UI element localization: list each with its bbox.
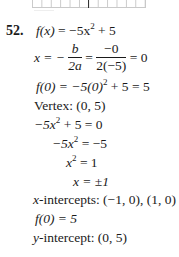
fraction-numerator: b bbox=[68, 42, 82, 58]
step-post: = 1 bbox=[77, 155, 98, 170]
step-post: = −5 bbox=[78, 136, 107, 151]
graph-grid-fragment bbox=[32, 0, 146, 8]
step-pre: −5x bbox=[52, 136, 74, 151]
vertex-line: Vertex: (0, 5) bbox=[34, 99, 106, 113]
y-intercept-line: y-intercept: (0, 5) bbox=[33, 231, 127, 245]
vertex-y-calculation: f(0) = −5(0)2 + 5 = 5 bbox=[36, 80, 150, 94]
function-lhs: f(x) bbox=[36, 23, 55, 38]
equals: = bbox=[82, 50, 96, 65]
graph-y-axis bbox=[88, 0, 89, 8]
vertex-x-result: = 0 bbox=[126, 50, 147, 65]
solve-step-4: x = ±1 bbox=[73, 175, 109, 189]
y-intercept-value: (0, 5) bbox=[98, 230, 127, 245]
function-eq: = −5x bbox=[55, 23, 90, 38]
step-pre: −5x bbox=[34, 117, 56, 132]
fraction-denominator: 2(−5) bbox=[96, 58, 126, 73]
x-intercepts-value: (−1, 0), (1, 0) bbox=[103, 192, 176, 207]
vertex-x-formula: x = − b 2a = −0 2(−5) = 0 bbox=[34, 43, 147, 74]
f-zero-line: f(0) = 5 bbox=[35, 212, 77, 226]
f-zero-text: f(0) = 5 bbox=[35, 211, 77, 226]
function-rest: + 5 bbox=[95, 23, 116, 38]
solve-step-3: x2 = 1 bbox=[66, 156, 98, 170]
vertex-y-rest: + 5 = 5 bbox=[107, 79, 149, 94]
vertex-label: Vertex: bbox=[34, 98, 76, 113]
solve-step-1: −5x2 + 5 = 0 bbox=[34, 118, 103, 132]
problem-number: 52. bbox=[6, 24, 24, 38]
x-intercepts-line: x-intercepts: (−1, 0), (1, 0) bbox=[33, 193, 176, 207]
y-intercept-label: -intercept: bbox=[39, 230, 98, 245]
grid-shadow bbox=[34, 10, 54, 11]
step-post: + 5 = 0 bbox=[60, 117, 102, 132]
vertex-x-lhs: x = − bbox=[34, 50, 65, 65]
function-definition: f(x) = −5x2 + 5 bbox=[36, 24, 116, 38]
solve-step-2: −5x2 = −5 bbox=[52, 137, 107, 151]
vertex-value: (0, 5) bbox=[76, 98, 105, 113]
x-intercepts-label: -intercepts: bbox=[39, 192, 103, 207]
problem-number-text: 52. bbox=[6, 23, 24, 38]
fraction-numerator: −0 bbox=[96, 42, 126, 58]
step-pre: x = ±1 bbox=[73, 174, 109, 189]
fraction-denominator: 2a bbox=[68, 58, 82, 73]
fraction-b-over-2a: b 2a bbox=[68, 42, 82, 73]
vertex-y-text: f(0) = −5(0) bbox=[36, 79, 103, 94]
fraction-computed: −0 2(−5) bbox=[96, 42, 126, 73]
